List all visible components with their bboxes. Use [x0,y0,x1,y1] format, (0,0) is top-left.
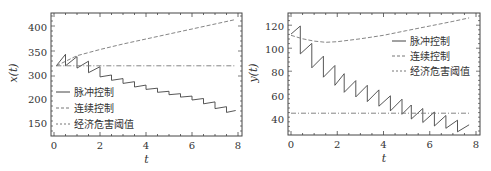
x-tick-label: 6 [427,139,433,150]
x-tick-label: 4 [380,139,386,150]
x-tick-label: 2 [334,139,340,150]
plot-frame [51,13,242,136]
x-tick-label: 0 [288,139,294,150]
y-tick-label: 40 [271,114,284,125]
x-tick-label: 0 [51,140,57,151]
y-tick-label: 400 [28,22,47,33]
series-continuous-control [56,20,235,66]
legend-label: 脉冲控制 [410,35,450,47]
chart-y-of-t: 02468120100806040ty(t)脉冲控制连续控制经济危害阈值 [247,13,480,165]
y-axis-label: x(t) [7,63,20,82]
y-tick-label: 120 [265,21,284,32]
x-tick-label: 8 [235,140,241,151]
y-tick-label: 350 [28,47,47,58]
legend-label: 连续控制 [410,50,450,62]
figure: 02468400350300200150tx(t)脉冲控制连续控制经济危害阈值 … [0,0,491,171]
x-tick-label: 6 [189,140,195,151]
y-axis-label: y(t) [247,63,260,83]
y-tick-label: 300 [28,70,47,81]
legend-label: 经济危害阈值 [410,65,470,77]
y-tick-label: 60 [271,91,284,102]
legend-label: 脉冲控制 [74,86,114,98]
y-tick-label: 200 [28,94,47,105]
x-axis-label: t [144,153,149,166]
y-tick-label: 80 [271,67,284,78]
chart-x-of-t: 02468400350300200150tx(t)脉冲控制连续控制经济危害阈值 [7,13,242,166]
legend-label: 连续控制 [74,102,114,114]
x-axis-label: t [382,152,387,165]
y-tick-label: 100 [265,44,284,55]
x-tick-label: 2 [97,140,103,151]
x-tick-label: 8 [473,139,479,150]
legend-label: 经济危害阈值 [74,118,134,130]
y-tick-label: 150 [28,118,47,129]
x-tick-label: 4 [143,140,149,151]
